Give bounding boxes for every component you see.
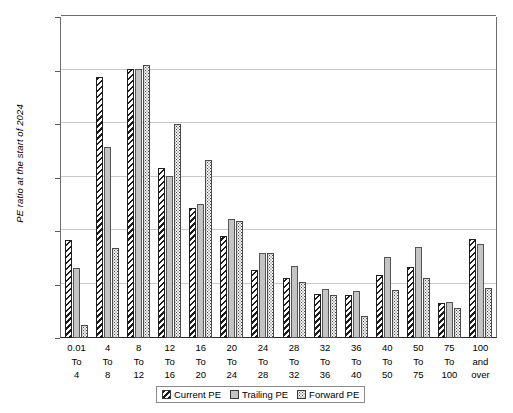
bar-group (434, 17, 465, 338)
x-tick-label-line: To (341, 355, 372, 369)
bar[interactable] (423, 278, 430, 338)
bar[interactable] (73, 268, 80, 338)
bar[interactable] (205, 160, 212, 338)
bar[interactable] (361, 316, 368, 338)
x-tick-label-line: over (465, 368, 496, 382)
legend-item-forward-pe[interactable]: Forward PE (297, 389, 359, 400)
x-tick-label: 12To16 (154, 341, 185, 382)
bar[interactable] (454, 308, 461, 338)
bar-group (372, 17, 403, 338)
bar[interactable] (291, 266, 298, 338)
bar-group (279, 17, 310, 338)
bar-group (123, 17, 154, 338)
bar[interactable] (477, 244, 484, 338)
bar[interactable] (353, 291, 360, 338)
legend-item-trailing-pe[interactable]: Trailing PE (230, 389, 288, 400)
x-tick-label: 24To28 (247, 341, 278, 382)
x-tick-label: 40To50 (372, 341, 403, 382)
x-tick-label-line: 36 (310, 368, 341, 382)
bar[interactable] (166, 176, 173, 338)
x-tick-label: 36To40 (341, 341, 372, 382)
x-tick-label: 100andover (465, 341, 496, 382)
bar-groups (61, 17, 496, 338)
x-tick-label-line: To (434, 355, 465, 369)
x-tick-label-line: 40 (341, 368, 372, 382)
bar-group (465, 17, 496, 338)
bar[interactable] (322, 289, 329, 338)
x-tick-label-line: 75 (434, 341, 465, 355)
bar[interactable] (384, 257, 391, 338)
bar-group (61, 17, 92, 338)
legend-swatch-forward-pe-icon (297, 390, 306, 399)
bar[interactable] (174, 124, 181, 338)
x-tick-label-line: 40 (372, 341, 403, 355)
x-tick-label: 8To12 (123, 341, 154, 382)
bar[interactable] (65, 240, 72, 338)
x-tick-label-line: 100 (465, 341, 496, 355)
chart-container: PE ratio at the start of 2024 0100200300… (0, 0, 513, 413)
bar[interactable] (143, 65, 150, 338)
x-tick-label-line: 50 (372, 368, 403, 382)
bar[interactable] (438, 303, 445, 338)
x-tick-label-line: To (61, 355, 92, 369)
bar[interactable] (283, 278, 290, 338)
bar[interactable] (485, 288, 492, 338)
x-tick-label: 28To32 (279, 341, 310, 382)
x-tick-label-line: 0.01 (61, 341, 92, 355)
bar[interactable] (220, 236, 227, 338)
gridline-600 (61, 15, 496, 16)
legend-item-current-pe[interactable]: Current PE (162, 389, 221, 400)
x-tick-label: 75To100 (434, 341, 465, 382)
bar[interactable] (127, 69, 134, 338)
x-tick-label: 50To75 (403, 341, 434, 382)
bar[interactable] (469, 239, 476, 338)
x-tick-label-line: 32 (279, 368, 310, 382)
x-tick-label: 4To8 (92, 341, 123, 382)
x-tick-label-line: 16 (185, 341, 216, 355)
x-tick-label-line: 32 (310, 341, 341, 355)
bar[interactable] (259, 253, 266, 338)
bar[interactable] (96, 77, 103, 338)
bar[interactable] (330, 295, 337, 338)
bar[interactable] (415, 247, 422, 338)
bar[interactable] (81, 325, 88, 338)
bar[interactable] (197, 204, 204, 338)
bar[interactable] (228, 219, 235, 338)
bar[interactable] (158, 168, 165, 338)
legend-swatch-trailing-pe-icon (230, 390, 239, 399)
legend: Current PE Trailing PE Forward PE (156, 386, 365, 403)
bar[interactable] (446, 302, 453, 338)
x-tick-label-line: To (154, 355, 185, 369)
x-tick-label-line: 8 (123, 341, 154, 355)
bar[interactable] (376, 275, 383, 338)
x-tick-label-line: To (247, 355, 278, 369)
bar[interactable] (345, 295, 352, 338)
bar[interactable] (135, 69, 142, 338)
y-axis-title: PE ratio at the start of 2024 (14, 74, 25, 254)
x-tick-label-line: To (185, 355, 216, 369)
bar[interactable] (407, 267, 414, 338)
x-tick-label-line: and (465, 355, 496, 369)
x-tick-label-line: To (92, 355, 123, 369)
bar[interactable] (251, 270, 258, 338)
bar[interactable] (236, 221, 243, 338)
bar[interactable] (299, 282, 306, 338)
x-tick-label-line: 100 (434, 368, 465, 382)
legend-swatch-current-pe-icon (162, 390, 171, 399)
x-tick-label-line: To (216, 355, 247, 369)
bar[interactable] (314, 294, 321, 338)
bar-group (92, 17, 123, 338)
bar[interactable] (267, 253, 274, 338)
x-tick-label-line: To (123, 355, 154, 369)
bar[interactable] (112, 248, 119, 338)
bar-group (185, 17, 216, 338)
x-tick-label-line: To (372, 355, 403, 369)
x-tick-label-line: 12 (123, 368, 154, 382)
bar[interactable] (189, 208, 196, 338)
x-tick-label-line: 28 (279, 341, 310, 355)
bar-group (310, 17, 341, 338)
bar[interactable] (392, 290, 399, 338)
x-tick-label: 16To20 (185, 341, 216, 382)
x-tick-label: 0.01To4 (61, 341, 92, 382)
bar[interactable] (104, 147, 111, 338)
